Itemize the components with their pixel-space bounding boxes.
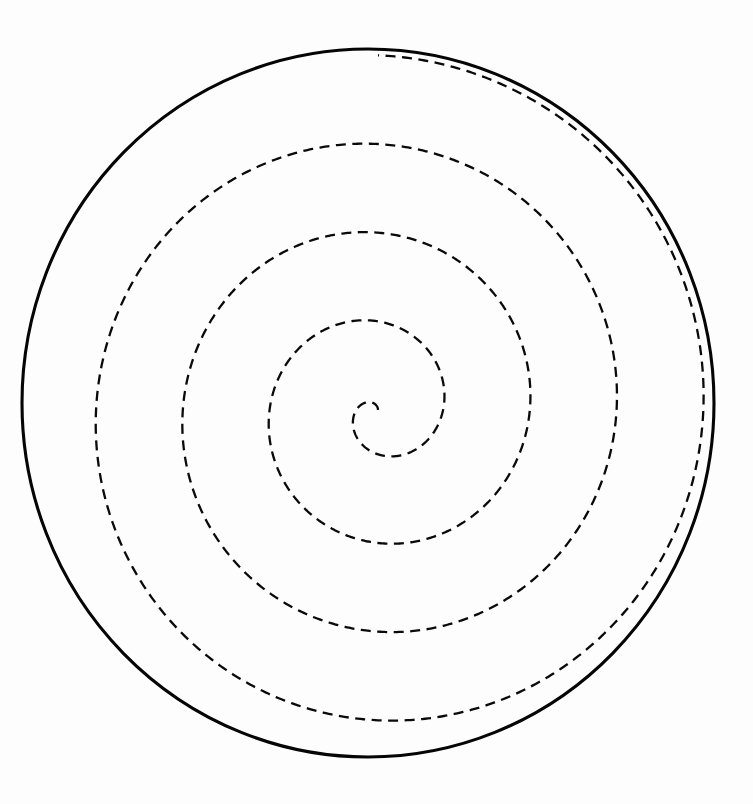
canvas-background xyxy=(0,0,753,804)
spiral-diagram-canvas xyxy=(0,0,753,804)
figure-root xyxy=(0,0,753,804)
